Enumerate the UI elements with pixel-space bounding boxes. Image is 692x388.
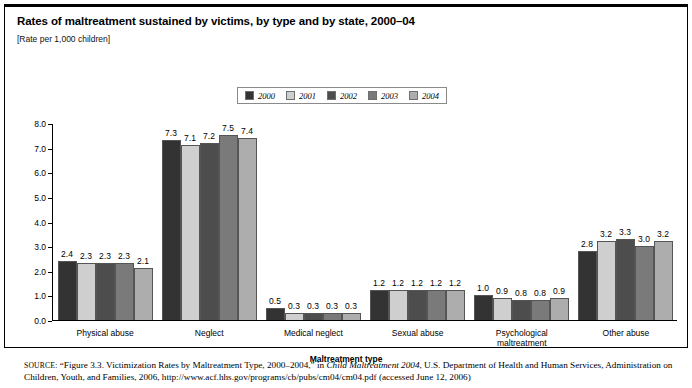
bar-sexual-abuse-2004[interactable]: 1.2	[446, 124, 465, 320]
bar-medical-neglect-2001[interactable]: 0.3	[285, 124, 304, 320]
bar-value-label: 7.3	[165, 128, 177, 138]
bar-value-label: 2.3	[80, 251, 92, 261]
bar-rect	[493, 298, 512, 320]
figure-container: Rates of maltreatment sustained by victi…	[0, 0, 692, 388]
legend-item-2004[interactable]: 2004	[409, 91, 439, 101]
y-axis-tick-mark	[48, 173, 52, 174]
bar-medical-neglect-2004[interactable]: 0.3	[342, 124, 361, 320]
bar-psychological-maltreatment-2001[interactable]: 0.9	[493, 124, 512, 320]
bar-sexual-abuse-2003[interactable]: 1.2	[427, 124, 446, 320]
x-axis-category-label: Physical abuse	[53, 328, 157, 348]
y-axis-tick-mark	[48, 223, 52, 224]
legend-label: 2004	[422, 91, 439, 101]
bar-other-abuse-2004[interactable]: 3.2	[654, 124, 673, 320]
y-axis-tick-label: 8.0	[16, 119, 46, 129]
bar-rect	[58, 261, 77, 320]
bar-value-label: 3.3	[619, 227, 631, 237]
bar-medical-neglect-2003[interactable]: 0.3	[323, 124, 342, 320]
bar-rect	[654, 241, 673, 320]
bar-value-label: 0.3	[288, 301, 300, 311]
bar-rect	[389, 290, 408, 320]
y-axis-tick-label: 6.0	[16, 168, 46, 178]
bar-rect	[408, 290, 427, 320]
bar-other-abuse-2003[interactable]: 3.0	[635, 124, 654, 320]
bar-physical-abuse-2004[interactable]: 2.1	[134, 124, 153, 320]
bar-sexual-abuse-2001[interactable]: 1.2	[389, 124, 408, 320]
bar-rect	[446, 290, 465, 320]
legend-label: 2000	[258, 91, 275, 101]
bar-neglect-2001[interactable]: 7.1	[181, 124, 200, 320]
y-axis-tick-label: 2.0	[16, 267, 46, 277]
bar-neglect-2002[interactable]: 7.2	[200, 124, 219, 320]
bar-sexual-abuse-2000[interactable]: 1.2	[370, 124, 389, 320]
legend-item-2002[interactable]: 2002	[327, 91, 357, 101]
bar-physical-abuse-2001[interactable]: 2.3	[77, 124, 96, 320]
y-axis-tick-mark	[48, 124, 52, 125]
bar-value-label: 3.0	[638, 234, 650, 244]
bar-group: 0.50.30.30.30.3	[261, 124, 365, 320]
bar-group: 2.42.32.32.32.1	[53, 124, 157, 320]
bar-value-label: 0.3	[345, 301, 357, 311]
bar-rect	[531, 300, 550, 320]
bar-value-label: 2.3	[118, 251, 130, 261]
x-axis-category-label: Other abuse	[574, 328, 678, 348]
y-axis-tick-label: 3.0	[16, 242, 46, 252]
bar-value-label: 3.2	[600, 229, 612, 239]
bar-psychological-maltreatment-2003[interactable]: 0.8	[531, 124, 550, 320]
bar-other-abuse-2000[interactable]: 2.8	[578, 124, 597, 320]
y-axis-tick-label: 1.0	[16, 291, 46, 301]
x-axis-category-label: Medical neglect	[261, 328, 365, 348]
bar-rect	[77, 263, 96, 320]
bar-group: 2.83.23.33.03.2	[573, 124, 677, 320]
bar-group: 1.00.90.80.80.9	[469, 124, 573, 320]
bar-rect	[304, 313, 323, 320]
bar-value-label: 1.2	[392, 278, 404, 288]
bar-psychological-maltreatment-2000[interactable]: 1.0	[474, 124, 493, 320]
legend-label: 2003	[381, 91, 398, 101]
bar-rect	[200, 143, 219, 320]
bar-medical-neglect-2002[interactable]: 0.3	[304, 124, 323, 320]
bar-other-abuse-2001[interactable]: 3.2	[597, 124, 616, 320]
bar-neglect-2004[interactable]: 7.4	[238, 124, 257, 320]
bar-physical-abuse-2000[interactable]: 2.4	[58, 124, 77, 320]
y-axis-tick-mark	[48, 321, 52, 322]
chart-frame: Rates of maltreatment sustained by victi…	[4, 4, 688, 348]
bar-rect	[512, 300, 531, 320]
bar-other-abuse-2002[interactable]: 3.3	[616, 124, 635, 320]
bar-value-label: 1.0	[477, 283, 489, 293]
bar-neglect-2003[interactable]: 7.5	[219, 124, 238, 320]
y-axis-tick-mark	[48, 272, 52, 273]
bar-rect	[219, 135, 238, 320]
bar-value-label: 7.4	[241, 126, 253, 136]
bar-value-label: 2.1	[137, 256, 149, 266]
bar-rect	[238, 138, 257, 320]
bar-physical-abuse-2002[interactable]: 2.3	[96, 124, 115, 320]
x-axis-labels: Physical abuseNeglectMedical neglectSexu…	[53, 328, 678, 348]
legend-item-2000[interactable]: 2000	[245, 91, 275, 101]
bar-medical-neglect-2000[interactable]: 0.5	[266, 124, 285, 320]
bar-value-label: 0.9	[553, 286, 565, 296]
bar-value-label: 2.4	[61, 249, 73, 259]
bar-sexual-abuse-2002[interactable]: 1.2	[408, 124, 427, 320]
bar-value-label: 1.2	[411, 278, 423, 288]
bar-physical-abuse-2003[interactable]: 2.3	[115, 124, 134, 320]
bar-value-label: 0.3	[326, 301, 338, 311]
bar-psychological-maltreatment-2002[interactable]: 0.8	[512, 124, 531, 320]
source-label: SOURCE:	[24, 361, 57, 370]
bar-rect	[370, 290, 389, 320]
bar-psychological-maltreatment-2004[interactable]: 0.9	[550, 124, 569, 320]
bar-value-label: 3.2	[657, 229, 669, 239]
legend-item-2001[interactable]: 2001	[286, 91, 316, 101]
bar-group: 1.21.21.21.21.2	[365, 124, 469, 320]
bar-rect	[181, 145, 200, 320]
x-axis-line	[52, 320, 677, 321]
bar-rect	[162, 140, 181, 320]
bar-value-label: 7.5	[222, 123, 234, 133]
bar-value-label: 0.8	[515, 288, 527, 298]
legend-item-2003[interactable]: 2003	[368, 91, 398, 101]
legend-swatch-icon	[409, 91, 418, 100]
bar-value-label: 2.8	[581, 239, 593, 249]
bar-neglect-2000[interactable]: 7.3	[162, 124, 181, 320]
bar-rect	[342, 313, 361, 320]
bar-rect	[578, 251, 597, 320]
